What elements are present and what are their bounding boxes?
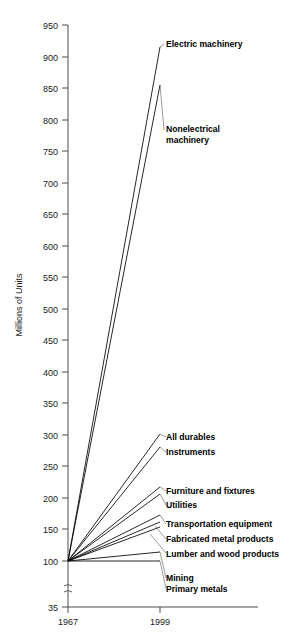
y-tick-label-350: 350 [43,399,58,409]
y-tick-label-35: 35 [48,603,58,613]
y-tick-label-100: 100 [43,557,58,567]
x-tick-marks [68,607,160,613]
series-label-transportation-equipment: Transportation equipment [166,519,272,529]
y-tick-label-850: 850 [43,84,58,94]
series-label-all-durables: All durables [166,432,215,442]
series-label-instruments: Instruments [166,447,215,457]
series-label-primary-metals: Primary metals [166,584,228,594]
y-tick-label-250: 250 [43,462,58,472]
y-tick-label-900: 900 [43,53,58,63]
series-label-nonelectrical-machinery-line1: Nonelectrical [166,124,220,134]
series-lines [68,47,160,561]
series-label-nonelectrical-machinery-line2: machinery [166,135,209,145]
y-tick-label-200: 200 [43,494,58,504]
y-tick-label-400: 400 [43,368,58,378]
series-line-electric-machinery [68,47,160,561]
leader-fabricated-metal-products [155,526,166,539]
x-tick-label-1967: 1967 [58,617,78,627]
y-tick-label-700: 700 [43,179,58,189]
series-line-mining [68,552,160,561]
y-tick-label-150: 150 [43,525,58,535]
y-tick-label-300: 300 [43,431,58,441]
y-tick-label-750: 750 [43,147,58,157]
leader-electric-machinery [160,44,164,47]
series-line-nonelectrical-machinery [68,85,160,561]
series-label-electric-machinery: Electric machinery [166,39,243,49]
chart-container: 950 900 850 800 750 700 650 600 550 500 … [0,0,299,644]
series-line-transportation-equipment [68,515,160,561]
y-tick-label-650: 650 [43,210,58,220]
y-tick-label-450: 450 [43,336,58,346]
y-tick-label-600: 600 [43,242,58,252]
series-label-utilities: Utilities [166,500,197,510]
x-tick-label-1999: 1999 [150,617,170,627]
y-tick-marks [62,25,68,607]
y-tick-label-800: 800 [43,116,58,126]
series-label-fabricated-metal-products: Fabricated metal products [166,534,274,544]
y-tick-label-500: 500 [43,305,58,315]
series-label-furniture-and-fixtures: Furniture and fixtures [166,486,255,496]
series-label-mining: Mining [166,573,194,583]
y-axis-title: Millions of Units [14,273,24,337]
leader-nonelectrical-machinery [160,85,164,130]
y-tick-label-950: 950 [43,21,58,31]
leader-lumber-and-wood-products [150,534,166,553]
y-tick-label-550: 550 [43,273,58,283]
line-chart: 950 900 850 800 750 700 650 600 550 500 … [0,0,299,644]
series-label-lumber-and-wood-products: Lumber and wood products [166,549,279,559]
